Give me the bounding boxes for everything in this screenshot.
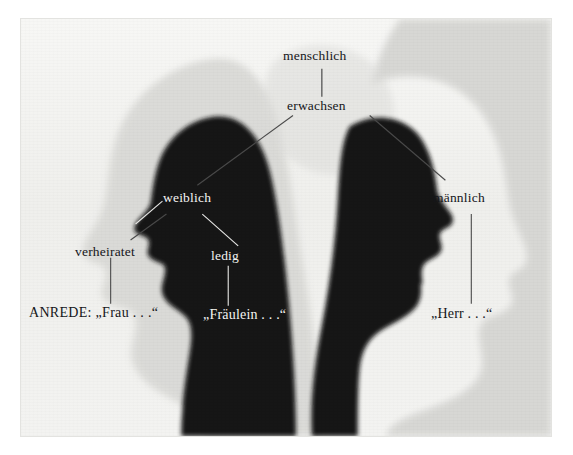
label-maennlich: männlich [433,191,485,205]
silhouette-artwork [21,19,551,436]
photo-plate: menschlich erwachsen weiblich männlich v… [20,18,552,437]
label-anrede-herr: „Herr . . .“ [431,307,492,321]
label-ledig: ledig [211,249,239,263]
label-verheiratet: verheiratet [75,245,135,259]
label-weiblich: weiblich [163,191,211,205]
label-anrede-frau: ANREDE: „Frau . . .“ [29,306,158,320]
label-erwachsen: erwachsen [287,99,346,113]
figure-page: menschlich erwachsen weiblich männlich v… [0,0,573,455]
label-menschlich: menschlich [283,49,346,63]
label-anrede-fraeulein: „Fräulein . . .“ [203,308,286,322]
